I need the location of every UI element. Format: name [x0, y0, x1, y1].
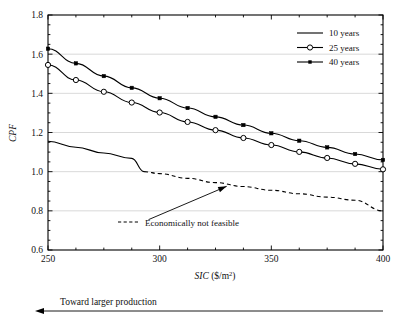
data-point-marker — [213, 128, 218, 133]
x-axis-title-unit-suffix: ) — [232, 271, 235, 282]
data-point-marker — [353, 152, 356, 155]
y-tick-label: 0.8 — [31, 206, 43, 216]
x-tick-label: 400 — [376, 254, 391, 264]
data-point-marker — [101, 89, 106, 94]
data-point-marker — [74, 62, 77, 65]
data-point-marker — [214, 115, 217, 118]
data-point-marker — [185, 119, 190, 124]
data-point-marker — [73, 77, 78, 82]
data-point-marker — [129, 100, 134, 105]
legend-label: 40 years — [329, 57, 360, 67]
y-tick-label: 1.8 — [31, 10, 43, 20]
y-tick-label: 0.6 — [31, 245, 43, 255]
annotation-label: Economically not feasible — [145, 218, 239, 228]
data-point-marker — [269, 142, 274, 147]
legend-marker-open-circle — [307, 45, 312, 50]
x-tick-label: 350 — [264, 254, 279, 264]
data-point-marker — [298, 139, 301, 142]
data-point-marker — [242, 123, 245, 126]
y-tick-label: 1.2 — [31, 128, 43, 138]
data-point-marker — [130, 86, 133, 89]
data-point-marker — [158, 97, 161, 100]
data-point-marker — [157, 110, 162, 115]
y-axis-title: CPF — [8, 124, 18, 142]
data-point-marker — [241, 135, 246, 140]
x-axis-title-base: SIC — [195, 271, 210, 281]
footer-arrow-label: Toward larger production — [60, 297, 157, 307]
chart-svg: 2503003504000.60.81.01.21.41.61.8 Econom… — [0, 0, 409, 323]
data-point-marker — [380, 167, 385, 172]
data-point-marker — [352, 161, 357, 166]
y-tick-label: 1.0 — [31, 167, 43, 177]
y-tick-label: 1.4 — [31, 89, 43, 99]
legend-label: 10 years — [329, 28, 360, 38]
x-tick-label: 300 — [153, 254, 168, 264]
data-point-marker — [381, 158, 384, 161]
data-point-marker — [46, 47, 49, 50]
x-axis-title-unit-prefix: ($/m — [209, 271, 230, 282]
legend-marker-filled-square — [308, 60, 311, 63]
data-point-marker — [186, 106, 189, 109]
data-point-marker — [325, 146, 328, 149]
legend-label: 25 years — [329, 43, 360, 53]
data-point-marker — [102, 74, 105, 77]
data-point-marker — [297, 149, 302, 154]
chart-figure: 2503003504000.60.81.01.21.41.61.8 Econom… — [0, 0, 409, 323]
data-point-marker — [270, 132, 273, 135]
data-point-marker — [325, 155, 330, 160]
y-tick-label: 1.6 — [31, 50, 43, 60]
data-point-marker — [45, 62, 50, 67]
x-tick-label: 250 — [41, 254, 56, 264]
